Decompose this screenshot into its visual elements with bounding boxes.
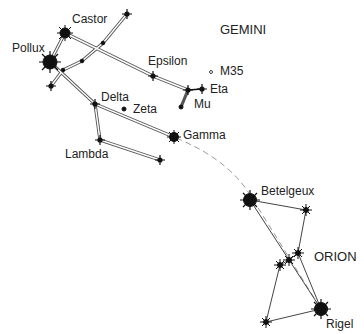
object-label-m35: M35 — [220, 65, 243, 77]
star-label-delta: Delta — [101, 91, 129, 103]
star-label-zeta: Zeta — [133, 103, 157, 115]
constellation-title-orion: ORION — [314, 250, 357, 263]
star-label-eta: Eta — [210, 83, 228, 95]
star-label-gamma: Gamma — [183, 129, 226, 141]
star-label-rigel: Rigel — [326, 318, 353, 330]
star-label-mu: Mu — [194, 98, 211, 110]
star-gamma — [167, 130, 181, 144]
gamma-betelgeux-dashed — [176, 138, 321, 309]
star-label-betelgeux: Betelgeux — [261, 185, 314, 197]
orion-lines — [250, 200, 321, 322]
star-betelgeux — [240, 190, 260, 210]
star-chart — [0, 0, 364, 334]
star-castor — [57, 25, 73, 41]
star-label-epsilon: Epsilon — [148, 55, 187, 67]
star-label-lambda: Lambda — [65, 148, 108, 160]
star-label-castor: Castor — [72, 13, 107, 25]
gemini-lines — [50, 14, 202, 160]
constellation-title-gemini: GEMINI — [220, 23, 266, 36]
star-label-pollux: Pollux — [12, 42, 45, 54]
star-rigel — [311, 299, 331, 319]
